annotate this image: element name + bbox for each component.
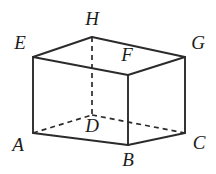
vertex-label-D: D [84, 115, 99, 136]
vertex-label-A: A [10, 134, 24, 155]
vertex-label-H: H [84, 8, 100, 29]
vertex-label-E: E [13, 32, 26, 53]
vertex-label-C: C [193, 132, 206, 153]
vertex-label-F: F [120, 44, 133, 65]
vertex-label-B: B [122, 149, 134, 170]
geometry-figure: ABCDEFGH [0, 0, 216, 174]
cuboid-diagram: ABCDEFGH [0, 0, 216, 174]
vertex-label-G: G [191, 32, 205, 53]
